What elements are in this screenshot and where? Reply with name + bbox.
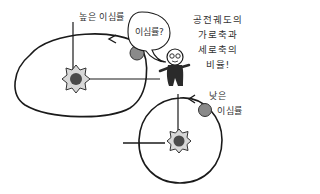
high-eccentricity-label: 높은 이심률 bbox=[79, 10, 125, 23]
explanation-note: 공전궤도의 가로축과 세로축의 비율! bbox=[186, 12, 250, 72]
character-icon bbox=[160, 49, 189, 86]
explanation-line: 비율! bbox=[186, 57, 250, 72]
explanation-line: 세로축의 bbox=[186, 42, 250, 57]
low-eccentricity-orbit bbox=[123, 94, 222, 183]
speech-bubble-text: 이심률? bbox=[135, 25, 164, 38]
low-eccentricity-label-line2: 이심률 bbox=[217, 104, 243, 117]
arrow-icon bbox=[109, 35, 116, 43]
low-eccentricity-label-line1: 낮은 bbox=[209, 89, 226, 102]
star-icon bbox=[62, 65, 90, 93]
explanation-line: 공전궤도의 bbox=[186, 12, 250, 27]
planet-icon bbox=[199, 104, 212, 117]
explanation-line: 가로축과 bbox=[186, 27, 250, 42]
star-icon bbox=[167, 129, 191, 153]
